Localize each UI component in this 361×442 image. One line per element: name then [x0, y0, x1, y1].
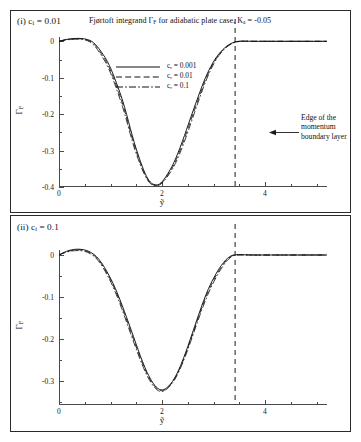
- legend-value: = 0.1: [172, 81, 189, 90]
- y-axis-gamma-sub: F: [18, 321, 24, 324]
- case-label-ii-prefix: (ii) c: [17, 222, 35, 232]
- y-tick-label: -0.2: [42, 335, 54, 344]
- series-cr-0.001-ii: [59, 249, 327, 390]
- series-cr-0.1-ii: [59, 251, 327, 392]
- annotation-line: Edge of the: [301, 113, 347, 122]
- case-label-i-suffix: = 0.01: [34, 16, 61, 26]
- curves-i: [59, 37, 327, 187]
- y-tick-label: 0: [50, 37, 54, 46]
- legend-label: cr = 0.01: [167, 71, 193, 80]
- y-axis-gamma-sub: F: [18, 106, 24, 109]
- y-tick-label: -0.3: [42, 146, 54, 155]
- x-axis-title-i: ỹ: [160, 197, 165, 207]
- annotation-i: Edge of the momentum boundary layer: [301, 113, 347, 141]
- x-tick-label: 4: [263, 407, 267, 416]
- figure-title-mid: for adiabatic plate case, K: [156, 16, 243, 25]
- legend-swatch-dashdot-icon: [115, 82, 161, 91]
- y-axis-title-i: ΓF: [14, 106, 24, 115]
- y-tick-label: 0: [50, 251, 54, 260]
- legend-item: cr = 0.001: [115, 61, 196, 71]
- x-tick-label: 0: [57, 407, 61, 416]
- annotation-arrow-i-icon: [269, 123, 299, 132]
- legend-item: cr = 0.1: [115, 81, 196, 91]
- y-axis-gamma: Γ: [14, 324, 24, 329]
- y-tick-label: -0.1: [42, 293, 54, 302]
- x-tick-label: 4: [263, 189, 267, 198]
- figure-container: (i) ci = 0.01 Fjørtoft integrand ΓF for …: [0, 0, 361, 442]
- case-label-ii: (ii) ci = 0.1: [17, 222, 59, 232]
- plot-area-ii: 0 2 4 0 -0.1 -0.2 -0.3 ΓF ỹ: [59, 250, 327, 405]
- legend-i: cr = 0.001 cr = 0.01 cr = 0.1: [115, 61, 196, 91]
- legend-swatch-dashed-icon: [115, 72, 161, 81]
- y-tick-label: -0.1: [42, 73, 54, 82]
- case-label-i-prefix: (i) c: [17, 16, 33, 26]
- series-cr-0.01-ii: [59, 250, 327, 391]
- legend-label: cr = 0.001: [167, 61, 196, 70]
- annotation-line: momentum: [301, 122, 347, 131]
- plot-area-i: 0 2 4 0 -0.1 -0.2 -0.3 -0.4: [59, 37, 327, 187]
- x-tick-label: 0: [57, 189, 61, 198]
- y-axis-title-ii: ΓF: [14, 321, 24, 330]
- annotation-line: boundary layer: [301, 132, 347, 141]
- case-label-ii-suffix: = 0.1: [37, 222, 59, 232]
- legend-value: = 0.01: [172, 71, 193, 80]
- legend-value: = 0.001: [172, 61, 197, 70]
- y-tick-label: -0.4: [42, 183, 54, 192]
- y-tick-label: -0.2: [42, 110, 54, 119]
- legend-item: cr = 0.01: [115, 71, 196, 81]
- x-axis-title-ii: ỹ: [160, 415, 165, 425]
- figure-title: Fjørtoft integrand ΓF for adiabatic plat…: [89, 16, 271, 25]
- legend-swatch-solid-icon: [115, 62, 161, 71]
- y-axis-gamma: Γ: [14, 109, 24, 114]
- figure-title-lead: Fjørtoft integrand: [89, 16, 149, 25]
- case-label-i: (i) ci = 0.01: [17, 16, 61, 26]
- legend-label: cr = 0.1: [167, 81, 189, 90]
- figure-title-tail: = -0.05: [246, 16, 272, 25]
- panel-case-i: (i) ci = 0.01 Fjørtoft integrand ΓF for …: [10, 10, 351, 213]
- y-tick-major: [59, 187, 64, 188]
- curves-ii: [59, 250, 327, 405]
- y-tick-label: -0.3: [42, 377, 54, 386]
- panel-case-ii: (ii) ci = 0.1 0 2 4: [10, 215, 351, 432]
